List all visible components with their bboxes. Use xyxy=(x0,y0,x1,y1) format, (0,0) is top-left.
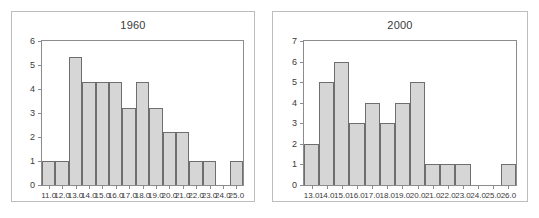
x-axis-label: 22.0 xyxy=(440,191,456,200)
y-axis-label: 0 xyxy=(30,180,35,190)
y-axis-tick xyxy=(300,41,304,42)
x-axis-tick xyxy=(89,185,90,189)
histogram-bar xyxy=(122,108,135,185)
x-axis-tick xyxy=(327,185,328,189)
chart-panel-2000: 2000 0123456713.014.015.016.017.018.019.… xyxy=(272,11,528,202)
y-axis-label: 3 xyxy=(30,108,35,118)
x-axis-tick xyxy=(183,185,184,189)
y-axis-label: 1 xyxy=(30,156,35,166)
x-axis-tick xyxy=(418,185,419,189)
y-axis-tick xyxy=(38,113,42,114)
x-axis-label: 17.0 xyxy=(364,191,380,200)
x-axis-tick xyxy=(223,185,224,189)
x-axis-label: 24.0 xyxy=(470,191,486,200)
histogram-bar xyxy=(501,164,516,185)
histogram-bar xyxy=(69,57,82,185)
histogram-bar xyxy=(42,161,55,185)
x-axis-tick xyxy=(448,185,449,189)
x-axis-label: 26.0 xyxy=(501,191,517,200)
histogram-bar xyxy=(109,82,122,185)
histogram-bar xyxy=(230,161,243,185)
y-axis-tick xyxy=(300,62,304,63)
x-axis-tick xyxy=(357,185,358,189)
histogram-bar xyxy=(365,103,380,185)
y-axis-label: 2 xyxy=(30,132,35,142)
x-axis-tick xyxy=(387,185,388,189)
histogram-bar xyxy=(82,82,95,185)
x-axis-label: 14.0 xyxy=(319,191,335,200)
x-axis-label: 25.0 xyxy=(229,191,245,200)
histogram-bar xyxy=(425,164,440,185)
y-axis-tick xyxy=(38,41,42,42)
y-axis-tick xyxy=(38,161,42,162)
x-axis-tick xyxy=(169,185,170,189)
x-axis-label: 18.0 xyxy=(379,191,395,200)
y-axis-label: 6 xyxy=(292,57,297,67)
x-axis-tick xyxy=(493,185,494,189)
y-axis-label: 6 xyxy=(30,36,35,46)
x-axis-label: 23.0 xyxy=(455,191,471,200)
plot-area-2000: 0123456713.014.015.016.017.018.019.020.0… xyxy=(303,40,517,186)
bars-1960 xyxy=(42,41,243,185)
histogram-bar xyxy=(149,108,162,185)
x-axis-tick xyxy=(478,185,479,189)
y-axis-tick xyxy=(300,144,304,145)
histogram-bar xyxy=(136,82,149,185)
y-axis-tick xyxy=(300,185,304,186)
y-axis-label: 4 xyxy=(292,98,297,108)
y-axis-label: 5 xyxy=(30,60,35,70)
histogram-bar xyxy=(349,123,364,185)
plot-area-1960: 012345611.012.013.014.015.016.017.018.01… xyxy=(41,40,244,186)
x-axis-label: 21.0 xyxy=(425,191,441,200)
x-axis-label: 25.0 xyxy=(485,191,501,200)
histogram-bar xyxy=(163,132,176,185)
histogram-bar xyxy=(176,132,189,185)
x-axis-tick xyxy=(49,185,50,189)
x-axis-tick xyxy=(210,185,211,189)
y-axis-tick xyxy=(300,123,304,124)
x-axis-label: 15.0 xyxy=(334,191,350,200)
histogram-bar xyxy=(96,82,109,185)
y-axis-tick xyxy=(38,65,42,66)
histogram-bar xyxy=(395,103,410,185)
x-axis-tick xyxy=(196,185,197,189)
histogram-bar xyxy=(319,82,334,185)
x-axis-tick xyxy=(102,185,103,189)
histogram-bar xyxy=(55,161,68,185)
x-axis-label: 20.0 xyxy=(410,191,426,200)
y-axis-tick xyxy=(38,137,42,138)
y-axis-label: 4 xyxy=(30,84,35,94)
y-axis-label: 0 xyxy=(292,180,297,190)
histogram-bar xyxy=(334,62,349,185)
x-axis-label: 13.0 xyxy=(304,191,320,200)
histogram-bar xyxy=(189,161,202,185)
x-axis-tick xyxy=(62,185,63,189)
histogram-bar xyxy=(455,164,470,185)
chart-title-1960: 1960 xyxy=(12,19,254,31)
histogram-bar xyxy=(380,123,395,185)
x-axis-label: 16.0 xyxy=(349,191,365,200)
x-axis-tick xyxy=(372,185,373,189)
y-axis-tick xyxy=(300,82,304,83)
y-axis-tick xyxy=(300,103,304,104)
y-axis-tick xyxy=(38,89,42,90)
histogram-figure: 1960 012345611.012.013.014.015.016.017.0… xyxy=(0,0,539,218)
y-axis-label: 2 xyxy=(292,139,297,149)
histogram-bar xyxy=(440,164,455,185)
x-axis-tick xyxy=(402,185,403,189)
histogram-bar xyxy=(203,161,216,185)
x-axis-tick xyxy=(508,185,509,189)
histogram-bar xyxy=(304,144,319,185)
y-axis-label: 7 xyxy=(292,36,297,46)
y-axis-label: 1 xyxy=(292,159,297,169)
x-axis-tick xyxy=(236,185,237,189)
x-axis-tick xyxy=(312,185,313,189)
x-axis-tick xyxy=(156,185,157,189)
y-axis-tick xyxy=(300,164,304,165)
x-axis-tick xyxy=(129,185,130,189)
x-axis-tick xyxy=(76,185,77,189)
x-axis-tick xyxy=(116,185,117,189)
histogram-bar xyxy=(410,82,425,185)
x-axis-tick xyxy=(433,185,434,189)
bars-2000 xyxy=(304,41,516,185)
